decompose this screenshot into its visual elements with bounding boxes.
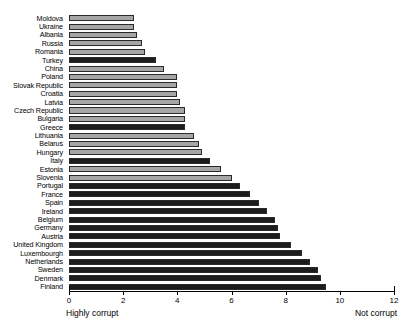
bar <box>69 242 291 248</box>
bar-row <box>69 241 394 249</box>
bar <box>69 233 280 239</box>
bar-row <box>69 232 394 240</box>
bar <box>69 183 240 189</box>
bar <box>69 284 326 290</box>
bar-row <box>69 249 394 257</box>
bar-row <box>69 39 394 47</box>
bar <box>69 74 177 80</box>
bar-row <box>69 266 394 274</box>
bar <box>69 124 185 130</box>
axis-tick-label: 12 <box>390 296 399 305</box>
bar <box>69 141 199 147</box>
bar <box>69 40 142 46</box>
bar-row <box>69 48 394 56</box>
axis-tick-label: 8 <box>283 296 287 305</box>
bar <box>69 191 250 197</box>
category-label: United Kingdom <box>0 241 66 249</box>
bar <box>69 15 134 21</box>
bar <box>69 57 156 63</box>
bar <box>69 275 321 281</box>
bar <box>69 259 310 265</box>
bar <box>69 175 232 181</box>
axis-note-not-corrupt: Not corrupt <box>355 308 397 318</box>
bar-row <box>69 140 394 148</box>
category-label: Bulgaria <box>0 115 66 123</box>
category-label: Finland <box>0 283 66 291</box>
bar-row <box>69 56 394 64</box>
bar-row <box>69 123 394 131</box>
category-label: Sweden <box>0 266 66 274</box>
bar-row <box>69 182 394 190</box>
plot-area <box>69 14 394 291</box>
bar <box>69 116 185 122</box>
bar <box>69 250 302 256</box>
category-label: Italy <box>0 157 66 165</box>
axis-tick-label: 2 <box>121 296 125 305</box>
axis-tick <box>340 291 341 295</box>
bar <box>69 32 137 38</box>
bar-row <box>69 90 394 98</box>
bar <box>69 217 275 223</box>
category-label: Romania <box>0 48 66 56</box>
axis-tick <box>232 291 233 295</box>
bar <box>69 107 185 113</box>
bar <box>69 166 221 172</box>
bar <box>69 149 202 155</box>
bar <box>69 267 318 273</box>
bar <box>69 99 180 105</box>
bar-row <box>69 199 394 207</box>
bar-row <box>69 22 394 30</box>
category-axis-labels: MoldovaUkraineAlbaniaRussiaRomaniaTurkey… <box>0 14 66 291</box>
bar <box>69 66 164 72</box>
category-label: Spain <box>0 199 66 207</box>
bar-row <box>69 283 394 291</box>
bar <box>69 158 210 164</box>
axis-tick-label: 0 <box>67 296 71 305</box>
axis-tick-label: 6 <box>229 296 233 305</box>
bar-row <box>69 131 394 139</box>
bar <box>69 49 145 55</box>
axis-note-highly-corrupt: Highly corrupt <box>66 308 118 318</box>
category-label: Germany <box>0 224 66 232</box>
bar-row <box>69 224 394 232</box>
bar-row <box>69 81 394 89</box>
bar <box>69 208 267 214</box>
axis-tick-label: 4 <box>175 296 179 305</box>
bar-row <box>69 165 394 173</box>
axis-tick-label: 10 <box>335 296 344 305</box>
bar <box>69 133 194 139</box>
bar-row <box>69 257 394 265</box>
axis-tick <box>69 291 70 295</box>
bar-row <box>69 115 394 123</box>
bar-row <box>69 64 394 72</box>
bar-row <box>69 31 394 39</box>
category-label: Belarus <box>0 140 66 148</box>
bar-row <box>69 14 394 22</box>
bar-row <box>69 173 394 181</box>
bar <box>69 82 177 88</box>
axis-tick <box>177 291 178 295</box>
bar-row <box>69 207 394 215</box>
bar-row <box>69 157 394 165</box>
bar-row <box>69 148 394 156</box>
bar-row <box>69 98 394 106</box>
category-label: Portugal <box>0 182 66 190</box>
axis-tick <box>123 291 124 295</box>
bar-row <box>69 73 394 81</box>
bar-row <box>69 106 394 114</box>
corruption-index-bar-chart: MoldovaUkraineAlbaniaRussiaRomaniaTurkey… <box>0 0 411 329</box>
axis-tick <box>286 291 287 295</box>
bar-rows <box>69 14 394 291</box>
category-label: Albania <box>0 31 66 39</box>
bar <box>69 200 259 206</box>
bar <box>69 225 278 231</box>
bar <box>69 24 134 30</box>
bar-row <box>69 215 394 223</box>
category-label: Croatia <box>0 90 66 98</box>
bar-row <box>69 274 394 282</box>
bar-row <box>69 190 394 198</box>
bar <box>69 91 177 97</box>
category-label: Poland <box>0 73 66 81</box>
axis-tick <box>394 291 395 295</box>
